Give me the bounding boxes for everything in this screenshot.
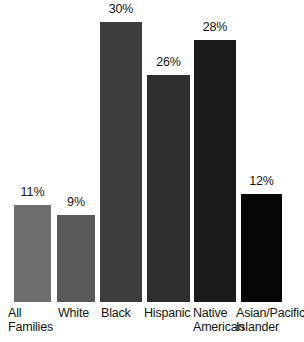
axis-label-black: Black: [101, 306, 143, 320]
plot-area: 11% 9% 30% 26% 28% 12%: [0, 0, 304, 302]
bar-value-native-american: 28%: [203, 21, 228, 34]
bar-group-native-american: 28%: [194, 2, 236, 302]
bar-black: [100, 22, 142, 302]
bar-white: [57, 215, 95, 302]
bar-native-american: [194, 40, 236, 302]
bar-group-all-families: 11%: [14, 2, 51, 302]
bar-group-white: 9%: [57, 2, 95, 302]
bar-value-asian-pacific-islander: 12%: [249, 175, 274, 188]
bar-asian-pacific-islander: [241, 194, 282, 302]
bar-value-hispanic: 26%: [156, 56, 181, 69]
bar-value-all-families: 11%: [21, 186, 45, 199]
bar-chart: 11% 9% 30% 26% 28% 12% All Families Whit…: [0, 0, 304, 342]
axis-label-native-american: Native American: [193, 306, 240, 334]
bar-value-black: 30%: [109, 3, 134, 16]
bar-group-black: 30%: [100, 2, 142, 302]
axis-label-hispanic: Hispanic: [144, 306, 196, 320]
bar-group-asian-pacific-islander: 12%: [241, 2, 282, 302]
bar-all-families: [14, 205, 51, 302]
axis-label-all-families: All Families: [8, 306, 52, 334]
x-axis-labels: All Families White Black Hispanic Native…: [0, 302, 304, 342]
bar-value-white: 9%: [67, 196, 85, 209]
bar-group-hispanic: 26%: [147, 2, 190, 302]
bar-hispanic: [147, 75, 190, 302]
axis-label-white: White: [58, 306, 100, 320]
axis-label-asian-pacific-islander: Asian/Pacific Islander: [236, 306, 304, 334]
